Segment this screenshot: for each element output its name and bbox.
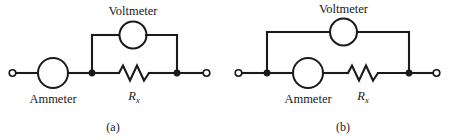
voltmeter-b-symbol xyxy=(330,19,357,46)
ammeter-a-symbol xyxy=(38,58,68,88)
ammeter-b-label: Ammeter xyxy=(284,92,332,106)
terminal-b-right xyxy=(433,70,440,77)
terminal-a-right xyxy=(203,70,210,77)
resistor-a-label-subscript: x xyxy=(135,95,140,105)
terminal-a-left xyxy=(9,70,16,77)
resistor-b-symbol xyxy=(348,66,378,81)
resistor-a-symbol xyxy=(119,66,149,81)
panel-a-caption: (a) xyxy=(106,120,119,134)
voltmeter-b-label: Voltmeter xyxy=(319,2,369,16)
circuit-diagram-figure: Voltmeter Ammeter Rx (a) xyxy=(0,0,450,140)
ammeter-b-symbol xyxy=(293,58,323,88)
voltmeter-a-label: Voltmeter xyxy=(108,4,158,18)
voltmeter-a-symbol xyxy=(120,22,147,49)
panel-b: Voltmeter Ammeter Rx (b) xyxy=(235,2,440,134)
panel-b-caption: (b) xyxy=(336,120,350,134)
ammeter-a-label: Ammeter xyxy=(29,92,77,106)
panel-a: Voltmeter Ammeter Rx (a) xyxy=(9,4,210,134)
resistor-b-label-subscript: x xyxy=(364,95,369,105)
figure-root: Voltmeter Ammeter Rx (a) xyxy=(0,0,450,140)
resistor-b-label: Rx xyxy=(356,89,369,105)
resistor-a-label: Rx xyxy=(127,89,140,105)
terminal-b-left xyxy=(235,70,242,77)
